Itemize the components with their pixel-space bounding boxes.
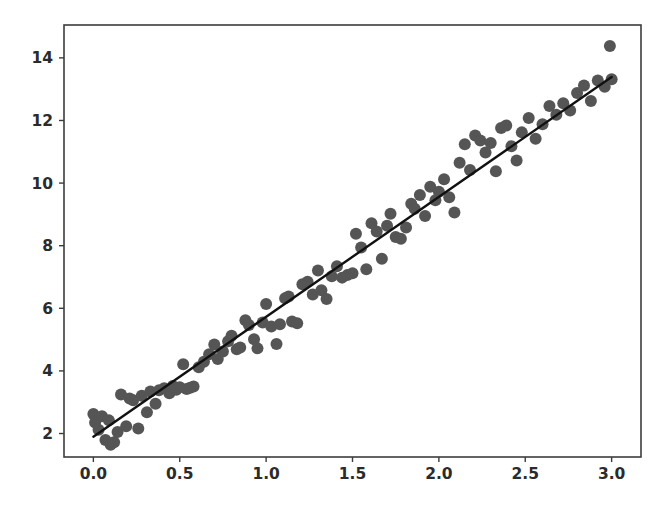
y-tick-label: 2	[42, 425, 53, 443]
data-point	[251, 342, 263, 354]
data-point	[274, 318, 286, 330]
y-tick-label: 14	[31, 49, 53, 67]
data-point	[291, 317, 303, 329]
data-point	[376, 253, 388, 265]
data-point	[188, 381, 200, 393]
data-point	[395, 233, 407, 245]
data-point	[270, 338, 282, 350]
data-point	[578, 79, 590, 91]
data-point	[108, 436, 120, 448]
data-point	[132, 423, 144, 435]
data-point	[500, 119, 512, 131]
data-point	[585, 95, 597, 107]
x-tick-label: 1.0	[252, 465, 280, 483]
y-tick-label: 12	[31, 112, 53, 130]
x-tick-label: 0.0	[80, 465, 108, 483]
data-point	[474, 135, 486, 147]
x-tick-label: 2.5	[512, 465, 539, 483]
data-point	[350, 228, 362, 240]
y-tick-label: 4	[42, 362, 53, 380]
data-point	[530, 133, 542, 145]
data-point	[150, 398, 162, 410]
data-point	[321, 293, 333, 305]
x-tick-label: 2.0	[425, 465, 453, 483]
data-point	[454, 157, 466, 169]
data-point	[141, 406, 153, 418]
scatter-plot: 0.00.51.01.52.02.53.0 2468101214	[0, 0, 672, 511]
data-point	[312, 264, 324, 276]
data-point	[347, 267, 359, 279]
x-tick-label: 1.5	[339, 465, 366, 483]
data-point	[120, 420, 132, 432]
data-point	[419, 210, 431, 222]
matplotlib-figure: 0.00.51.01.52.02.53.0 2468101214	[0, 0, 672, 511]
data-point	[234, 341, 246, 353]
y-tick-label: 10	[31, 175, 53, 193]
data-point	[604, 40, 616, 52]
data-point	[459, 138, 471, 150]
data-point	[523, 112, 535, 124]
y-tick-label: 6	[42, 300, 53, 318]
data-point	[485, 137, 497, 149]
data-point	[260, 298, 272, 310]
data-point	[414, 189, 426, 201]
data-point	[177, 358, 189, 370]
y-tick-label: 8	[42, 237, 53, 255]
data-point	[438, 173, 450, 185]
data-point	[448, 207, 460, 219]
data-point	[360, 263, 372, 275]
data-point	[490, 165, 502, 177]
x-tick-label: 0.5	[166, 465, 193, 483]
x-tick-label: 3.0	[598, 465, 626, 483]
data-point	[511, 155, 523, 167]
data-point	[385, 208, 397, 220]
